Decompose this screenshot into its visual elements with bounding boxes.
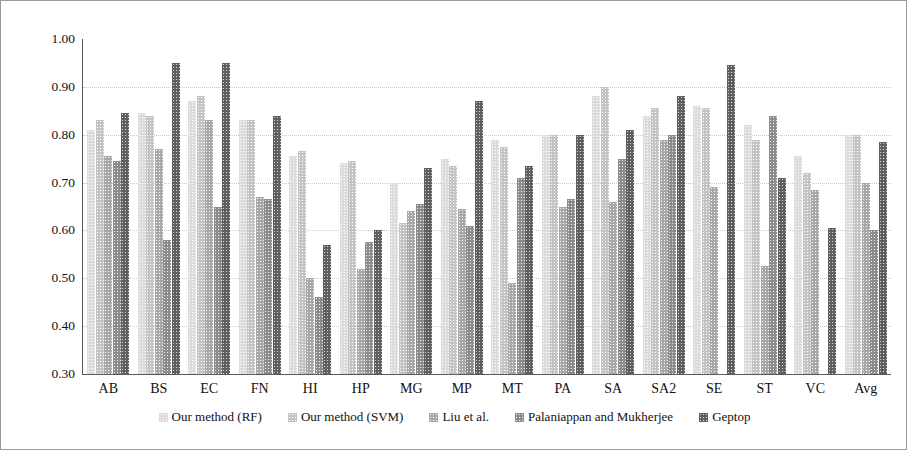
y-axis-tick-label: 0.60 [1,223,75,237]
bar [138,113,146,374]
chart-figure: AUC 1.000.900.800.700.600.500.400.30 Our… [0,0,907,450]
y-axis-tick-label: 0.90 [1,80,75,94]
bar [458,209,466,374]
bar [475,101,483,374]
legend-item[interactable]: Our method (SVM) [288,409,404,425]
bar-group [487,39,538,374]
bar [517,178,525,374]
x-axis-tick-label: BS [134,381,185,397]
bar [525,166,533,374]
y-axis-tick-label: 0.80 [1,128,75,142]
bar [618,159,626,374]
bar [188,101,196,374]
x-axis-tick-label: ST [740,381,791,397]
x-axis-tick-label: SA2 [639,381,690,397]
x-axis-tick-label: FN [235,381,286,397]
legend-swatch-icon [429,413,438,422]
x-axis-tick-label: MG [386,381,437,397]
bar [163,240,171,374]
bar [146,116,154,374]
x-axis-tick-label: VC [790,381,841,397]
bar [113,161,121,374]
legend-item[interactable]: Geptop [699,409,750,425]
bar [677,96,685,374]
bar [155,149,163,374]
bar [87,130,95,374]
x-axis-tick-label: SE [689,381,740,397]
bar [710,187,718,374]
bar [222,63,230,374]
bar-group [689,39,740,374]
bar [550,135,558,374]
bar-group [285,39,336,374]
bar [879,142,887,374]
bar [256,197,264,374]
bar [794,156,802,374]
bar [121,113,129,374]
bar [559,207,567,375]
bar [601,87,609,374]
legend-item[interactable]: Palaniappan and Mukherjee [515,409,673,425]
plot-area [83,39,891,374]
bar [508,283,516,374]
y-axis-tick-label: 0.70 [1,176,75,190]
bar [298,151,306,374]
legend-label: Our method (RF) [172,409,262,425]
bar [778,178,786,374]
legend-label: Palaniappan and Mukherjee [528,409,673,425]
bar [542,135,550,374]
bar [752,140,760,375]
bar-group [83,39,134,374]
x-axis-tick-label: SA [588,381,639,397]
bar-group [588,39,639,374]
bar [491,140,499,375]
bar [306,278,314,374]
bar [643,116,651,374]
legend-swatch-icon [288,413,297,422]
x-axis-tick-label: EC [184,381,235,397]
y-axis-tick-label: 0.30 [1,367,75,381]
x-axis-tick-label: MP [437,381,488,397]
bar [390,183,398,374]
bar [424,168,432,374]
bar [365,242,373,374]
bar-group [538,39,589,374]
y-axis-ticks: 1.000.900.800.700.600.500.400.30 [1,1,79,450]
bar [197,96,205,374]
bar [761,266,769,374]
bar [693,106,701,374]
bar-group [336,39,387,374]
bar [407,211,415,374]
bar [357,269,365,374]
chart-legend: Our method (RF)Our method (SVM)Liu et al… [1,409,907,425]
bar [315,297,323,374]
x-axis-tick-label: PA [538,381,589,397]
bar [626,130,634,374]
bar [567,199,575,374]
legend-item[interactable]: Our method (RF) [159,409,262,425]
bar [289,156,297,374]
legend-item[interactable]: Liu et al. [429,409,489,425]
bar-group [639,39,690,374]
bar [744,125,752,374]
bar [214,207,222,375]
legend-label: Geptop [712,409,750,425]
bar [172,63,180,374]
bar [96,120,104,374]
y-axis-tick-label: 1.00 [1,32,75,46]
x-axis-line [82,374,891,375]
x-axis-tick-label: Avg [841,381,892,397]
bar [323,245,331,374]
bar-group [437,39,488,374]
legend-swatch-icon [699,413,708,422]
legend-label: Liu et al. [442,409,489,425]
bar [500,147,508,374]
bar-group [386,39,437,374]
bar [340,163,348,374]
bar [104,156,112,374]
bar [828,228,836,374]
bar [273,116,281,374]
bar [609,202,617,374]
bar [870,230,878,374]
bar [449,166,457,374]
